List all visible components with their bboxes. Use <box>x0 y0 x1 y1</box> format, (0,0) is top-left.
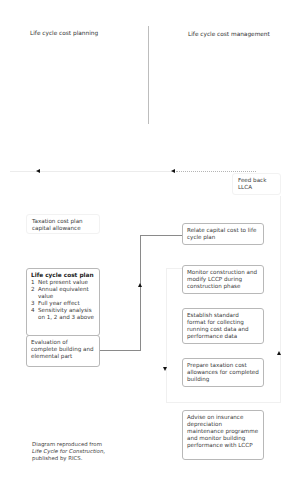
connector-eval-horizontal <box>100 350 140 351</box>
lccp-item: 2 Annual equivalent value <box>31 286 95 300</box>
step-relate-capital-cost: Relate capital cost to life cycle plan <box>182 223 264 245</box>
loop-frame-top <box>166 268 182 269</box>
feedback-line1: Feed back <box>238 177 275 184</box>
feedback-line-dotted <box>176 171 256 172</box>
feedback-line-solid <box>10 171 174 172</box>
step-establish-format: Establish standard format for collecting… <box>182 308 264 344</box>
life-cycle-cost-plan-box: Life cycle cost plan 1 Net present value… <box>26 268 100 336</box>
heading-lcc-management: Life cycle cost management <box>188 31 270 38</box>
taxation-line1: Taxation cost plan <box>32 218 94 225</box>
arrow-left-icon <box>36 169 40 173</box>
arrow-up-icon <box>138 283 142 287</box>
heading-lcc-planning: Life cycle cost planning <box>30 30 98 37</box>
taxation-line2: capital allowance <box>32 225 94 232</box>
connector-top-horizontal <box>140 235 182 236</box>
evaluation-text: Evaluation of complete building and elem… <box>31 339 95 360</box>
lccp-item: 1 Net present value <box>31 279 95 286</box>
feedback-llca-box: Feed back LLCA <box>232 173 281 195</box>
arrow-left-icon <box>171 169 175 173</box>
loop-frame-right <box>280 196 281 403</box>
arrow-up-icon <box>277 351 281 355</box>
lccp-title: Life cycle cost plan <box>31 272 95 279</box>
step-prepare-taxation: Prepare taxation cost allowances for com… <box>182 358 264 387</box>
loop-frame-left <box>166 268 167 403</box>
section-divider <box>148 26 149 124</box>
step-monitor-construction: Monitor construction and modify LCCP dur… <box>182 265 264 294</box>
loop-frame-bottom <box>166 402 281 403</box>
caption: Diagram reproduced from Life Cycle for C… <box>32 441 105 462</box>
arrow-down-icon <box>163 367 167 371</box>
evaluation-box: Evaluation of complete building and elem… <box>26 335 100 367</box>
feedback-line2: LLCA <box>238 184 275 191</box>
connector-vertical <box>140 235 141 351</box>
lccp-item: 4 Sensitivity analysis on 1, 2 and 3 abo… <box>31 307 95 321</box>
step-advise-insurance: Advise on insurance depreciation mainten… <box>182 410 264 460</box>
taxation-cost-plan-box: Taxation cost plan capital allowance <box>26 214 100 234</box>
caption-line3: published by RICS. <box>32 455 105 462</box>
lccp-item: 3 Full year effect <box>31 300 95 307</box>
caption-book-title: Life Cycle for Construction <box>32 448 103 454</box>
caption-line1: Diagram reproduced from <box>32 441 105 448</box>
